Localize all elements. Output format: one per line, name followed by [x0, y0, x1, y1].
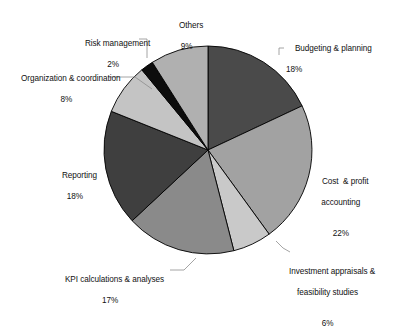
pie-label-reporting-text: Reporting: [62, 171, 97, 180]
pie-label-reporting-value: 18%: [53, 192, 97, 203]
pie-label-cost-profit-accounting-value: 22%: [313, 229, 369, 240]
pie-label-cost-profit-accounting-text-line1: Cost & profit: [322, 177, 369, 186]
pie-label-budgeting-planning-value: 18%: [286, 65, 372, 76]
pie-label-others: Others 9%: [170, 10, 203, 73]
pie-label-organization-coordination-value: 8%: [12, 95, 121, 106]
pie-label-kpi-calculations-analyses-text: KPI calculations & analyses: [65, 275, 164, 284]
pie-label-risk-management: Risk management 2%: [76, 28, 150, 91]
pie-label-investment-appraisals-text-line2: feasibility studies: [280, 288, 375, 299]
pie-label-investment-appraisals-value: 6%: [280, 319, 375, 330]
pie-label-reporting: Reporting 18%: [53, 160, 97, 223]
pie-label-budgeting-planning: Budgeting & planning 18%: [286, 33, 372, 96]
pie-label-cost-profit-accounting: Cost & profit accounting 22%: [313, 166, 369, 261]
pie-label-others-value: 9%: [170, 42, 203, 53]
leader-line-kpi-calculations: [170, 258, 196, 270]
pie-label-cost-profit-accounting-text-line2: accounting: [313, 198, 369, 209]
pie-label-kpi-calculations-analyses-value: 17%: [56, 296, 164, 307]
pie-label-risk-management-text: Risk management: [85, 39, 150, 48]
leader-line-investment-appraisals: [276, 241, 290, 252]
pie-label-investment-appraisals: Investment appraisals & feasibility stud…: [280, 256, 375, 330]
pie-label-others-text: Others: [179, 21, 203, 30]
pie-label-kpi-calculations-analyses: KPI calculations & analyses 17%: [56, 264, 164, 327]
pie-label-budgeting-planning-text: Budgeting & planning: [295, 44, 372, 53]
pie-label-risk-management-value: 2%: [76, 60, 150, 71]
leader-line-budgeting-planning: [279, 48, 284, 55]
pie-label-investment-appraisals-text-line1: Investment appraisals &: [289, 267, 375, 276]
